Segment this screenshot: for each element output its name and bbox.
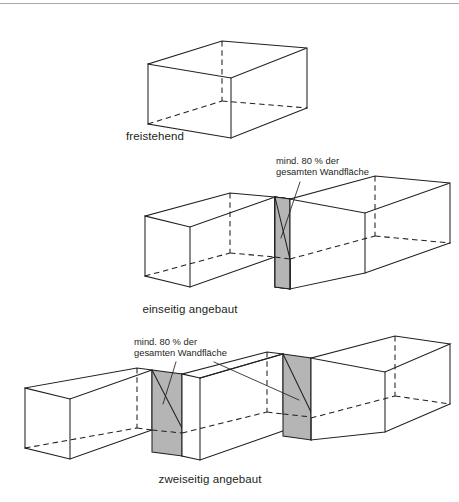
box3m-hidden-floor-right bbox=[267, 412, 283, 414]
annotation-mid-line2: gesamten Wandfläche bbox=[276, 166, 369, 177]
box2r-face-front bbox=[365, 183, 450, 273]
shared-wall-panel-left bbox=[152, 370, 182, 456]
shared-wall-panel-mid-outline bbox=[275, 197, 290, 289]
annotation-low-line1: mind. 80 % der bbox=[134, 336, 227, 347]
figure-root: mind. 80 % der gesamten Wandfläche mind.… bbox=[0, 0, 459, 502]
diagram-freestanding bbox=[148, 41, 307, 138]
box3r-face-front bbox=[385, 348, 450, 432]
caption-einseitig-angebaut: einseitig angebaut bbox=[0, 303, 380, 315]
annotation-mid-wall-area: mind. 80 % der gesamten Wandfläche bbox=[276, 155, 369, 178]
box2l-face-left bbox=[145, 216, 190, 287]
caption-freistehend: freistehend bbox=[0, 130, 310, 142]
diagram-two-sides-attached bbox=[25, 336, 450, 460]
box3l-face-left bbox=[25, 388, 70, 459]
annotation-low-line2: gesamten Wandfläche bbox=[134, 347, 227, 358]
shared-wall-panel-right bbox=[283, 354, 311, 440]
diagram-canvas bbox=[0, 0, 459, 502]
caption-zweiseitig-angebaut: zweiseitig angebaut bbox=[0, 473, 420, 485]
diagram-one-side-attached bbox=[145, 176, 450, 289]
annotation-mid-line1: mind. 80 % der bbox=[276, 155, 369, 166]
annotation-low-wall-area: mind. 80 % der gesamten Wandfläche bbox=[134, 336, 227, 359]
